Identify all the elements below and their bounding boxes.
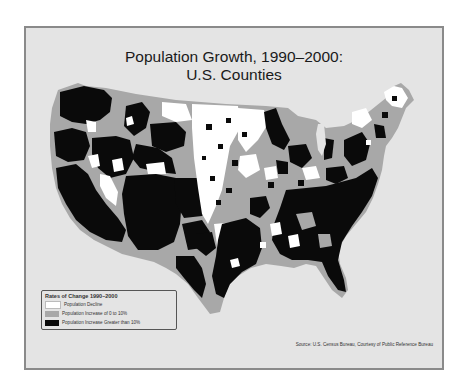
legend-item-moderate-increase: Population Increase of 0 to 10% [45,309,174,318]
map-frame: Population Growth, 1990–2000: U.S. Count… [24,26,444,370]
legend-swatch-high-increase [45,320,59,326]
legend-swatch-moderate-increase [45,311,59,317]
legend-label-high-increase: Population Increase Greater than 10% [62,320,140,325]
legend-title: Rates of Change 1990–2000 [45,293,174,300]
map-title-line-2: U.S. Counties [26,66,442,84]
legend-swatch-decline [45,301,61,309]
map-legend: Rates of Change 1990–2000 Population Dec… [41,290,177,330]
legend-item-high-increase: Population Increase Greater than 10% [45,318,174,327]
map-title: Population Growth, 1990–2000: U.S. Count… [26,48,442,84]
legend-label-moderate-increase: Population Increase of 0 to 10% [62,311,127,316]
legend-item-decline: Population Decline [45,300,174,309]
source-credit: Source: U.S. Census Bureau, Courtesy of … [296,342,433,347]
map-title-line-1: Population Growth, 1990–2000: [26,48,442,66]
legend-label-decline: Population Decline [64,302,102,307]
